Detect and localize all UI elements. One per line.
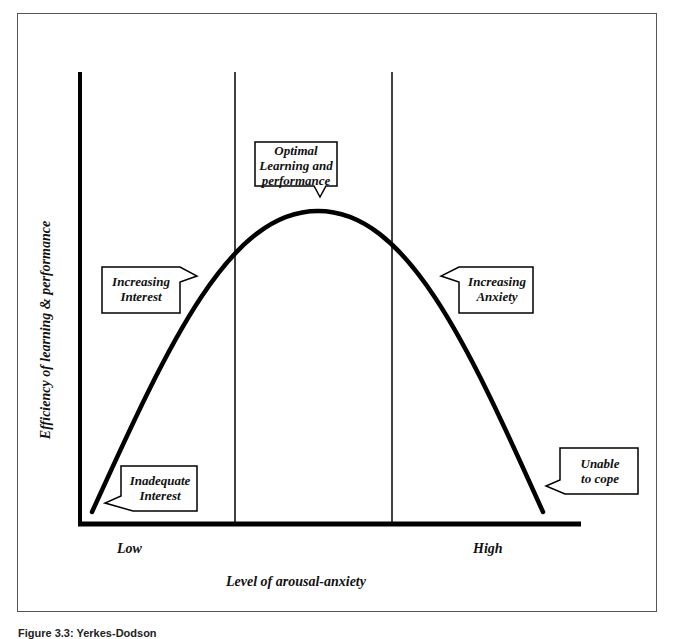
- callout-line: Learning and: [252, 158, 340, 173]
- y-axis-label: Efficiency of learning & performance: [38, 221, 54, 439]
- x-tick-high: High: [473, 541, 503, 557]
- callout-line: performance: [252, 173, 340, 188]
- callout-line: Interest: [104, 289, 178, 304]
- callout-inadequate-interest: Inadequate Interest: [124, 473, 196, 503]
- callout-line: Increasing: [104, 274, 178, 289]
- callout-line: Anxiety: [461, 289, 533, 304]
- x-axis-label: Level of arousal-anxiety: [226, 574, 366, 590]
- yerkes-dodson-diagram: [0, 0, 674, 639]
- callout-line: Unable: [564, 456, 636, 471]
- callout-unable-to-cope: Unable to cope: [564, 456, 636, 486]
- callout-increasing-anxiety: Increasing Anxiety: [461, 274, 533, 304]
- callout-line: to cope: [564, 471, 636, 486]
- callout-optimal: Optimal Learning and performance: [252, 143, 340, 188]
- x-tick-low: Low: [117, 541, 142, 557]
- callout-line: Inadequate: [124, 473, 196, 488]
- callout-line: Optimal: [252, 143, 340, 158]
- callout-line: Increasing: [461, 274, 533, 289]
- callout-increasing-interest: Increasing Interest: [104, 274, 178, 304]
- figure-caption: Figure 3.3: Yerkes-Dodson: [18, 627, 157, 639]
- callout-line: Interest: [124, 488, 196, 503]
